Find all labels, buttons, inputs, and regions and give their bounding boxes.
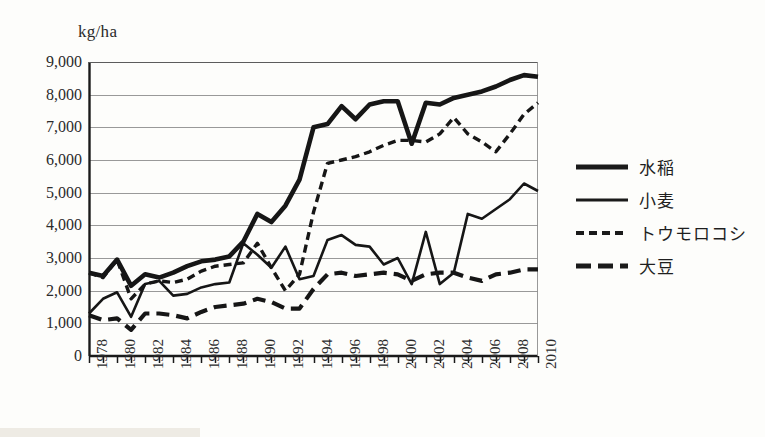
x-tick-label: 1982 bbox=[151, 339, 166, 369]
y-tick-label: 9,000 bbox=[24, 54, 82, 70]
x-tick-label: 1980 bbox=[123, 339, 138, 369]
x-tick-label: 1986 bbox=[207, 339, 222, 369]
legend-item-suito[interactable]: 水稲 bbox=[576, 150, 762, 183]
series-line-thick-solid bbox=[89, 75, 538, 286]
x-tick-label: 2000 bbox=[404, 339, 419, 369]
legend-label-suito: 水稲 bbox=[639, 154, 675, 179]
y-tick-label: 3,000 bbox=[24, 250, 82, 266]
legend-item-daizu[interactable]: 大豆 bbox=[576, 249, 762, 282]
x-tick-label: 2008 bbox=[516, 339, 531, 369]
x-tick-label: 1988 bbox=[235, 339, 250, 369]
legend-item-tomorokoshi[interactable]: トウモロコシ bbox=[576, 216, 762, 249]
x-tick-label: 2002 bbox=[432, 339, 447, 369]
legend-label-tomorokoshi: トウモロコシ bbox=[639, 220, 747, 245]
legend-item-komugi[interactable]: 小麦 bbox=[576, 183, 762, 216]
x-tick-label: 1992 bbox=[291, 339, 306, 369]
legend-line-swatch-thick-solid bbox=[576, 160, 628, 174]
page-edge-artifact bbox=[0, 428, 200, 437]
y-tick-label: 6,000 bbox=[24, 152, 82, 168]
x-tick-label: 1998 bbox=[376, 339, 391, 369]
x-tick-label: 2010 bbox=[544, 339, 559, 369]
y-tick-label: 0 bbox=[24, 348, 82, 364]
legend-label-komugi: 小麦 bbox=[639, 187, 675, 212]
series-line-thin-solid bbox=[89, 184, 538, 317]
legend-line-swatch-short-dash bbox=[576, 226, 628, 240]
y-tick-label: 8,000 bbox=[24, 87, 82, 103]
y-tick-label: 2,000 bbox=[24, 283, 82, 299]
legend-label-daizu: 大豆 bbox=[639, 253, 675, 278]
y-tick-label: 1,000 bbox=[24, 315, 82, 331]
legend-line-swatch-thin-solid bbox=[576, 193, 628, 207]
x-tick-label: 2004 bbox=[460, 339, 475, 369]
legend-line-swatch-long-dash bbox=[576, 259, 628, 273]
x-tick-label: 2006 bbox=[488, 339, 503, 369]
chart-page: kg/ha 9,0008,0007,0006,0005,0004,0003,00… bbox=[0, 0, 765, 437]
x-tick-label: 1990 bbox=[263, 339, 278, 369]
y-tick-label: 7,000 bbox=[24, 119, 82, 135]
chart-legend: 水稲 小麦 トウモロコシ 大豆 bbox=[576, 150, 762, 282]
x-tick-label: 1978 bbox=[95, 339, 110, 369]
x-tick-label: 1984 bbox=[179, 339, 194, 369]
y-tick-label: 5,000 bbox=[24, 185, 82, 201]
x-tick-label: 1996 bbox=[348, 339, 363, 369]
y-tick-label: 4,000 bbox=[24, 217, 82, 233]
x-tick-label: 1994 bbox=[320, 339, 335, 369]
